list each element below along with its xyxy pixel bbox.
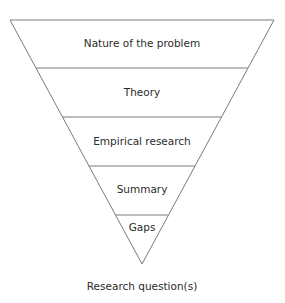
- layer-label-empirical-research: Empirical research: [93, 135, 191, 147]
- layer-label-gaps: Gaps: [129, 221, 156, 233]
- output-label-research-questions: Research question(s): [87, 280, 198, 292]
- inverted-pyramid-diagram: Nature of the problem Theory Empirical r…: [0, 0, 285, 303]
- layer-label-theory: Theory: [123, 86, 160, 98]
- layer-label-nature-of-the-problem: Nature of the problem: [84, 37, 200, 49]
- layer-label-summary: Summary: [117, 183, 168, 195]
